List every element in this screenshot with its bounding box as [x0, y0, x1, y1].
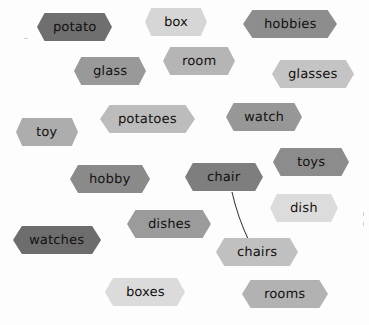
node-label-hobbies: hobbies	[264, 18, 317, 31]
node-label-box: box	[164, 16, 188, 29]
word-hexagon-diagram: potato box hobbies glass room glasses po…	[0, 0, 369, 325]
node-glass[interactable]: glass	[74, 57, 146, 85]
node-label-watches: watches	[29, 234, 85, 247]
node-dish[interactable]: dish	[270, 194, 338, 222]
node-label-boxes: boxes	[125, 286, 164, 299]
node-chairs[interactable]: chairs	[216, 238, 298, 266]
node-potato[interactable]: potato	[37, 13, 112, 41]
node-hobbies[interactable]: hobbies	[243, 10, 337, 38]
paper-speck	[24, 38, 28, 39]
node-chair[interactable]: chair	[185, 163, 263, 191]
edge-chair-chairs	[232, 192, 249, 241]
paper-speck	[363, 222, 364, 226]
node-watches[interactable]: watches	[13, 226, 101, 254]
node-label-dishes: dishes	[147, 218, 190, 231]
node-box[interactable]: box	[145, 8, 207, 36]
node-rooms[interactable]: rooms	[242, 280, 328, 308]
paper-speck	[363, 212, 364, 216]
node-room[interactable]: room	[163, 47, 235, 75]
node-watch[interactable]: watch	[226, 103, 302, 131]
node-label-potatoes: potatoes	[118, 113, 177, 126]
node-toys[interactable]: toys	[273, 148, 349, 176]
node-label-toys: toys	[297, 156, 326, 169]
node-potatoes[interactable]: potatoes	[100, 105, 195, 133]
node-label-hobby: hobby	[89, 173, 131, 186]
node-glasses[interactable]: glasses	[272, 60, 354, 88]
node-label-dish: dish	[290, 202, 318, 215]
node-label-rooms: rooms	[264, 288, 306, 301]
node-label-toy: toy	[36, 126, 58, 139]
node-label-chair: chair	[207, 171, 241, 184]
node-label-glass: glass	[93, 65, 128, 78]
node-dishes[interactable]: dishes	[127, 210, 211, 238]
node-hobby[interactable]: hobby	[70, 165, 150, 193]
node-toy[interactable]: toy	[16, 118, 78, 146]
node-boxes[interactable]: boxes	[105, 278, 185, 306]
node-label-chairs: chairs	[237, 246, 278, 259]
node-label-watch: watch	[244, 111, 284, 124]
node-label-potato: potato	[53, 21, 97, 34]
node-label-glasses: glasses	[288, 68, 338, 81]
node-label-room: room	[182, 55, 217, 68]
